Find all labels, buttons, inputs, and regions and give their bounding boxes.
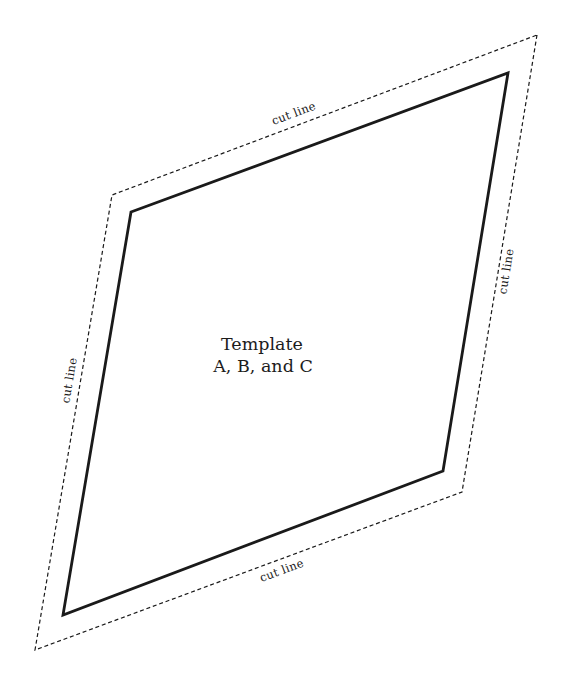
cut-line-label-bottom: cut line	[258, 556, 306, 585]
cut-template-diagram: cut line cut line cut line cut line Temp…	[0, 0, 573, 687]
pattern-template-page: cut line cut line cut line cut line Temp…	[0, 0, 573, 687]
template-title-line1: Template	[221, 334, 303, 354]
cut-line-label-right: cut line	[495, 247, 516, 295]
cut-line-label-left: cut line	[58, 356, 79, 404]
template-title-line2: A, B, and C	[212, 356, 313, 376]
cut-line-label-top: cut line	[270, 99, 318, 128]
